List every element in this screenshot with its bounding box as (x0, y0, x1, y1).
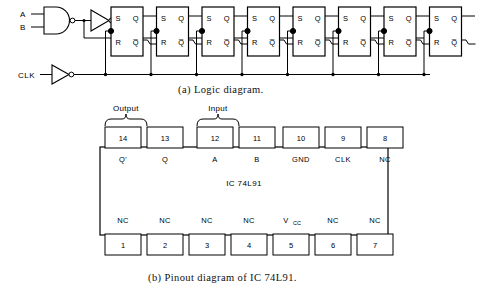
bottom-pin-7-number: 7 (373, 241, 377, 250)
bottom-pin-4-number: 4 (247, 241, 251, 250)
flipflop-3-r-pin: R (207, 38, 213, 47)
top-pin-14-label: Q' (119, 155, 127, 164)
flipflop-5-r-pin: R (298, 38, 304, 47)
top-pin-14-number: 14 (119, 134, 127, 143)
caption-a: (a) Logic diagram. (178, 84, 264, 95)
clock-inverter (40, 65, 430, 84)
caption-b: (b) Pinout diagram of IC 74L91. (148, 272, 297, 283)
flipflop-3-s-pin: S (207, 14, 212, 23)
clock-label: CLK (18, 71, 35, 80)
bottom-pin-2-number: 2 (163, 241, 167, 250)
flipflop-3-q-pin: Q (224, 14, 230, 23)
flipflop-1-clock-bubble (108, 28, 113, 33)
top-pin-9-label: CLK (335, 155, 351, 164)
flipflop-5-clock-bubble (290, 28, 295, 33)
flipflop-7-r-pin: R (389, 38, 395, 47)
top-pin-11-number: 11 (253, 134, 261, 143)
bottom-pin-3-number: 3 (205, 241, 209, 250)
flipflop-4-q-pin: Q (269, 14, 275, 23)
flipflop-2-s-pin: S (161, 14, 166, 23)
flipflop-6-clock-bubble (336, 28, 341, 33)
top-pin-9-number: 9 (341, 134, 345, 143)
flipflop-8-clock-bubble (427, 28, 432, 33)
top-pin-8-number: 8 (383, 134, 387, 143)
top-pin-10-number: 10 (297, 134, 305, 143)
bottom-pin-3-label: NC (201, 216, 213, 225)
flipflop-5-s-pin: S (298, 14, 303, 23)
flipflop-4: SQRQ̅ (240, 7, 293, 76)
flipflop-6: SQRQ̅ (331, 7, 384, 76)
input-a-label: A (20, 10, 26, 19)
flipflop-1-q-pin: Q (133, 14, 139, 23)
flipflop-7-s-pin: S (389, 14, 394, 23)
flipflop-7-clock-bubble (381, 28, 386, 33)
flipflop-4-clock-bubble (245, 28, 250, 33)
flipflop-7-q-pin: Q (406, 14, 412, 23)
top-pin-12-label: A (212, 155, 217, 164)
flipflop-3-clock-bubble (199, 28, 204, 33)
bottom-pin-6-label: NC (327, 216, 339, 225)
top-pin-13-number: 13 (161, 134, 169, 143)
flipflop-7-qbar-pin: Q̅ (406, 38, 412, 47)
flipflop-6-s-pin: S (343, 14, 348, 23)
top-pin-13-label: Q (162, 155, 168, 164)
flipflop-6-q-pin: Q (360, 14, 366, 23)
output-bracket-label: Output (113, 104, 139, 113)
flipflop-8-q-pin: Q (451, 14, 457, 23)
figure-74l91: A B CLK (0, 0, 492, 289)
flipflop-1-s-pin: S (116, 14, 121, 23)
bottom-pin-7-label: NC (369, 216, 381, 225)
flipflop-2-qbar-pin: Q̅ (178, 38, 184, 47)
flipflop-2-q-pin: Q (178, 14, 184, 23)
flipflop-8-qbar-pin: Q̅ (451, 38, 457, 47)
flipflop-2-clock-bubble (154, 28, 159, 33)
flipflop-4-qbar-pin: Q̅ (269, 38, 275, 47)
flipflop-8-s-pin: S (434, 14, 439, 23)
flipflop-1: SQRQ̅ (104, 7, 157, 76)
flipflop-1-r-pin: R (116, 38, 122, 47)
bottom-pin-5-label-subscript: CC (293, 220, 301, 226)
flipflop-2: SQRQ̅ (149, 7, 202, 76)
flipflop-4-s-pin: S (252, 14, 257, 23)
flipflop-4-r-pin: R (252, 38, 258, 47)
bottom-pin-4-label: NC (243, 216, 255, 225)
flipflop-7: SQRQ̅ (377, 7, 430, 76)
bottom-pin-1-label: NC (117, 216, 129, 225)
pinout-diagram: Output Input IC 74L91 14 Q' 13 Q 12 A (0, 100, 492, 280)
flipflop-8-r-pin: R (434, 38, 440, 47)
input-wires (31, 14, 44, 27)
logic-diagram: A B CLK (0, 0, 492, 95)
flipflop-5: SQRQ̅ (286, 7, 339, 76)
flipflop-3-qbar-pin: Q̅ (224, 38, 230, 47)
bottom-pin-6-number: 6 (331, 241, 335, 250)
flipflop-1-qbar-pin: Q̅ (133, 38, 139, 47)
input-bracket-label: Input (208, 104, 228, 113)
ic-label: IC 74L91 (226, 179, 262, 188)
input-bracket: Input (197, 104, 239, 126)
bottom-pin-2-label: NC (159, 216, 171, 225)
input-b-label: B (20, 23, 26, 32)
flipflop-3: SQRQ̅ (195, 7, 248, 76)
top-pin-12-number: 12 (211, 134, 219, 143)
bottom-pin-5-number: 5 (289, 241, 293, 250)
top-pin-10-label: GND (292, 155, 310, 164)
flipflop-5-q-pin: Q (315, 14, 321, 23)
and-gate (44, 7, 75, 34)
flipflop-8: SQRQ̅ (422, 7, 475, 76)
bottom-pin-5-label: V (283, 216, 288, 225)
top-pin-11-label: B (254, 155, 259, 164)
top-pin-8-label: NC (379, 155, 391, 164)
flipflop-6-qbar-pin: Q̅ (360, 38, 366, 47)
output-bracket: Output (105, 104, 147, 126)
flipflop-6-r-pin: R (343, 38, 349, 47)
flipflop-2-r-pin: R (161, 38, 167, 47)
bottom-pin-1-number: 1 (121, 241, 125, 250)
flipflop-5-qbar-pin: Q̅ (315, 38, 321, 47)
